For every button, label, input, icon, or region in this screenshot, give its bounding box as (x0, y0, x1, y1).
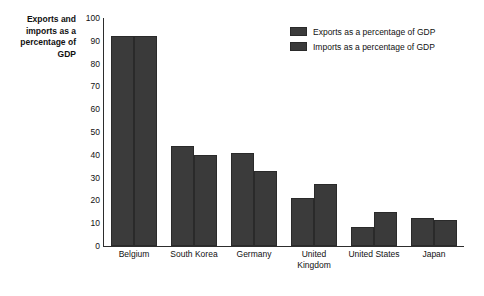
bar-imports (134, 36, 157, 246)
y-tick-label: 70 (74, 82, 100, 91)
x-axis-category-labels: BelgiumSouth KoreaGermanyUnited KingdomU… (104, 249, 464, 289)
legend-item: Imports as a percentage of GDP (290, 41, 482, 52)
x-category-label: United Kingdom (284, 249, 344, 271)
bar-exports (231, 153, 254, 246)
y-tick-label: 80 (74, 59, 100, 68)
bar-imports (434, 220, 457, 246)
y-tick-label: 10 (74, 219, 100, 228)
y-tick-label: 20 (74, 196, 100, 205)
y-tick-label: 100 (74, 14, 100, 23)
x-category-label: South Korea (164, 249, 224, 260)
x-category-label: Belgium (104, 249, 164, 260)
legend: Exports as a percentage of GDPImports as… (290, 26, 482, 56)
x-category-label: United States (344, 249, 404, 260)
bar-exports (291, 198, 314, 246)
bar-imports (254, 171, 277, 246)
bar-imports (314, 184, 337, 246)
bar-group (104, 18, 164, 246)
y-tick-label: 30 (74, 173, 100, 182)
bar-exports (111, 36, 134, 246)
bar-chart: Exports and imports as a percentage of G… (0, 0, 484, 296)
y-tick-label: 40 (74, 150, 100, 159)
legend-swatch (290, 27, 307, 36)
bar-group (224, 18, 284, 246)
x-category-label: Japan (404, 249, 464, 260)
bar-group (164, 18, 224, 246)
legend-swatch (290, 42, 307, 51)
y-tick-label: 90 (74, 36, 100, 45)
y-axis-title: Exports and imports as a percentage of G… (2, 14, 76, 60)
bar-imports (194, 155, 217, 246)
legend-item: Exports as a percentage of GDP (290, 26, 482, 37)
y-tick-label: 60 (74, 105, 100, 114)
legend-label: Exports as a percentage of GDP (313, 27, 435, 37)
y-axis-tick-labels: 1009080706050403020100 (74, 18, 100, 246)
x-category-label: Germany (224, 249, 284, 260)
bar-exports (171, 146, 194, 246)
bar-exports (411, 218, 434, 247)
legend-label: Imports as a percentage of GDP (313, 42, 435, 52)
y-tick-label: 0 (74, 242, 100, 251)
bar-exports (351, 227, 374, 246)
bar-imports (374, 212, 397, 246)
y-tick-label: 50 (74, 128, 100, 137)
